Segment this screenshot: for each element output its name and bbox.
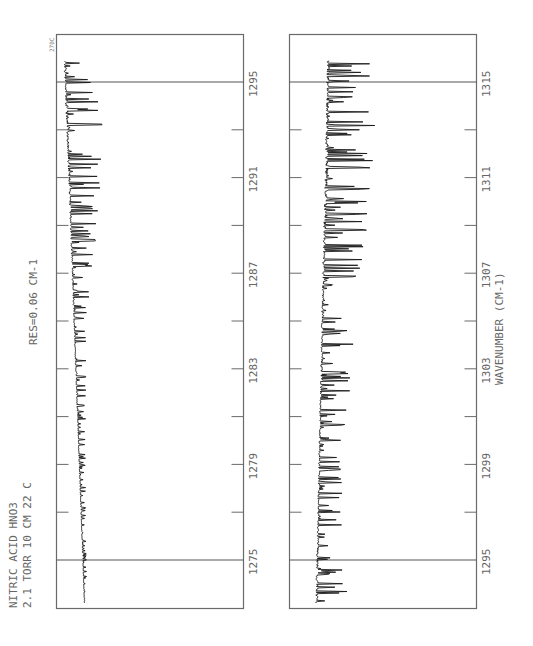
tick-label: 1283 <box>247 357 260 384</box>
left-panel <box>57 35 244 609</box>
tick-label: 1295 <box>480 549 493 576</box>
left-spectrum-trace <box>64 61 102 603</box>
tick-label: 1311 <box>480 166 493 193</box>
tick-label: 1299 <box>480 453 493 480</box>
resolution-label: RES=0.06 CM-1 <box>27 259 40 345</box>
tick-label: 1307 <box>480 262 493 289</box>
corner-tag: 270C <box>48 37 55 52</box>
tick-label: 1287 <box>247 262 260 289</box>
left-tick-labels: 127512791283128712911295 <box>247 71 260 576</box>
right-panel-ticks <box>290 82 477 560</box>
title-line-2: 2.1 TORR 10 CM 22 C <box>21 482 34 608</box>
left-panel-ticks <box>57 82 244 560</box>
tick-label: 1291 <box>247 166 260 193</box>
spectrum-figure: NITRIC ACID HNO3 2.1 TORR 10 CM 22 C RES… <box>0 0 533 646</box>
tick-label: 1279 <box>247 453 260 480</box>
right-panel <box>290 35 477 609</box>
tick-label: 1303 <box>480 357 493 384</box>
left-panel-frame <box>57 35 244 609</box>
x-axis-label: WAVENUMBER (CM-1) <box>493 272 506 385</box>
tick-label: 1275 <box>247 549 260 576</box>
tick-label: 1315 <box>480 71 493 98</box>
title-line-1: NITRIC ACID HNO3 <box>7 502 20 608</box>
right-spectrum-trace <box>316 61 375 603</box>
tick-label: 1295 <box>247 71 260 98</box>
right-panel-frame <box>290 35 477 609</box>
right-tick-labels: 129512991303130713111315 <box>480 71 493 576</box>
